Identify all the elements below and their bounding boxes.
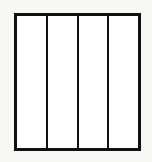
diagram-canvas [0, 0, 152, 162]
column-cell-4 [107, 16, 138, 148]
column-cell-1 [17, 16, 46, 148]
column-cell-2 [46, 16, 77, 148]
column-cell-3 [77, 16, 108, 148]
rectangle-frame [14, 13, 141, 151]
